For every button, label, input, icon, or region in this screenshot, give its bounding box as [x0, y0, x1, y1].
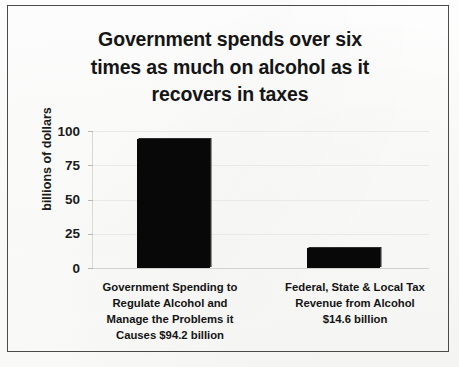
x-axis-baseline	[92, 268, 429, 269]
y-axis-tick-mark	[88, 165, 93, 166]
chart-title-line-1: Government spends over six	[40, 26, 420, 54]
category-label-line: Federal, State & Local Tax	[262, 279, 448, 295]
chart-screenshot: Government spends over six times as much…	[0, 0, 459, 367]
bar	[307, 248, 380, 268]
x-axis-category-label: Government Spending to Regulate Alcohol …	[72, 279, 268, 343]
chart-title-line-2: times as much on alcohol as it	[40, 54, 420, 82]
x-axis-category-label: Federal, State & Local Tax Revenue from …	[262, 279, 448, 327]
bar	[137, 139, 210, 268]
plot-area	[92, 131, 429, 268]
y-axis-tick-mark	[88, 234, 93, 235]
gridline	[92, 131, 429, 132]
clipped-caption-below-frame	[90, 357, 380, 365]
category-label-line: $14.6 billion	[262, 311, 448, 327]
y-axis-tick-label: 75	[36, 159, 80, 173]
category-label-line: Revenue from Alcohol	[262, 295, 448, 311]
category-label-line: Manage the Problems it	[72, 311, 268, 327]
y-axis-tick-mark	[88, 200, 93, 201]
y-axis-tick-mark	[88, 268, 93, 269]
chart-title-line-3: recovers in taxes	[40, 81, 420, 109]
y-axis-tick-label: 25	[36, 227, 80, 241]
y-axis-tick-label: 0	[36, 262, 80, 276]
y-axis-tick-label: 100	[36, 125, 80, 139]
y-axis-tick-mark	[88, 131, 93, 132]
chart-title: Government spends over six times as much…	[40, 26, 420, 109]
y-axis-tick-label: 50	[36, 193, 80, 207]
category-label-line: Regulate Alcohol and	[72, 295, 268, 311]
category-label-line: Government Spending to	[72, 279, 268, 295]
category-label-line: Causes $94.2 billion	[72, 327, 268, 343]
